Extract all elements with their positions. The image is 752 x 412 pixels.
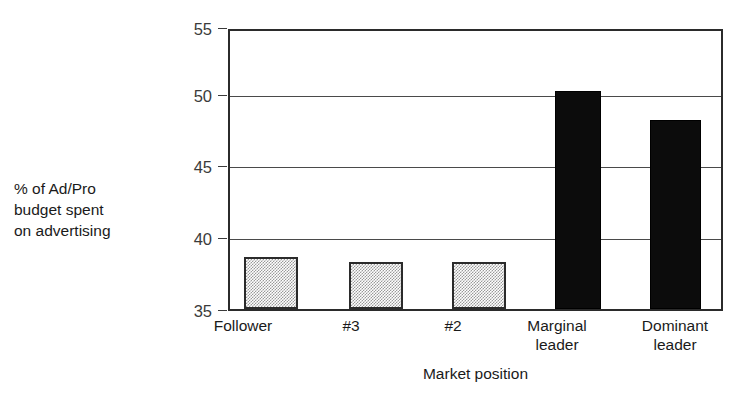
gridline-45 <box>230 167 721 168</box>
y-tick-label: 50 <box>176 87 212 105</box>
bar-marginal-leader[interactable] <box>555 91 601 309</box>
y-tick-55: 55 <box>176 20 228 38</box>
y-tick-mark <box>218 238 227 239</box>
y-tick-mark <box>218 166 227 167</box>
y-tick-40: 40 <box>176 230 228 248</box>
bar-chart-figure: % of Ad/Pro budget spent on advertising … <box>0 0 752 412</box>
y-tick-mark <box>218 28 227 29</box>
x-axis-tick-labels: Follower #3 #2 Marginal leader Dominant … <box>0 316 752 366</box>
y-tick-label: 40 <box>176 230 212 248</box>
plot-area <box>228 29 723 311</box>
bar-dominant-leader[interactable] <box>650 120 701 309</box>
gridline-50 <box>230 96 721 97</box>
y-tick-50: 50 <box>176 87 228 105</box>
x-label-follower: Follower <box>199 316 287 335</box>
bar-number-3[interactable] <box>349 262 403 309</box>
x-label-number-3: #3 <box>307 316 395 335</box>
x-label-dominant-leader: Dominant leader <box>625 316 725 354</box>
y-tick-45: 45 <box>176 158 228 176</box>
y-tick-mark <box>218 310 227 311</box>
x-axis-title: Market position <box>228 364 723 383</box>
x-label-marginal-leader: Marginal leader <box>510 316 604 354</box>
y-tick-label: 55 <box>176 20 212 38</box>
y-tick-label: 45 <box>176 158 212 176</box>
bar-number-2[interactable] <box>452 262 506 309</box>
bar-follower[interactable] <box>244 257 298 309</box>
gridline-40 <box>230 239 721 240</box>
y-tick-mark <box>218 95 227 96</box>
x-label-number-2: #2 <box>409 316 497 335</box>
